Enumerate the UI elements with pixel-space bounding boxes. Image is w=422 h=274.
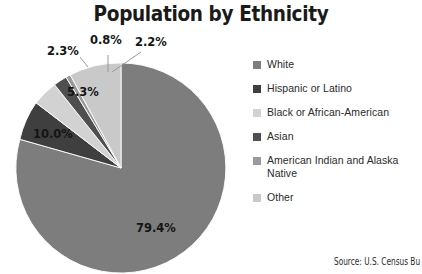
- legend-label-black-or-african-american: Black or African-American: [267, 106, 389, 119]
- legend-label-other: Other: [267, 191, 294, 204]
- legend-item-asian[interactable]: Asian: [253, 130, 422, 143]
- legend-label-asian: Asian: [267, 130, 294, 143]
- legend-item-white[interactable]: White: [253, 58, 422, 71]
- legend-swatch-white: [253, 61, 261, 69]
- source-note: Source: U.S. Census Bu: [334, 256, 420, 267]
- legend-swatch-other: [253, 194, 261, 202]
- leader-line-asian: [80, 57, 88, 67]
- legend-swatch-american-indian-and-alaska-native: [253, 157, 261, 165]
- data-label-hispanic-or-latino: 10.0%: [33, 128, 73, 141]
- legend-item-other[interactable]: Other: [253, 191, 422, 204]
- data-label-white: 79.4%: [136, 222, 176, 235]
- legend-swatch-black-or-african-american: [253, 109, 261, 117]
- legend-label-hispanic-or-latino: Hispanic or Latino: [267, 82, 352, 95]
- data-label-black-or-african-american: 5.3%: [67, 86, 99, 99]
- data-label-asian: 2.3%: [47, 45, 79, 58]
- chart-legend: White Hispanic or Latino Black or Africa…: [253, 58, 422, 215]
- data-label-american-indian-and-alaska-native: 0.8%: [90, 34, 122, 47]
- legend-item-hispanic-or-latino[interactable]: Hispanic or Latino: [253, 82, 422, 95]
- legend-swatch-hispanic-or-latino: [253, 85, 261, 93]
- pie-chart-figure: Population by Ethnicity (function () { v…: [0, 0, 422, 274]
- data-label-other: 2.2%: [135, 36, 167, 49]
- legend-item-american-indian-and-alaska-native[interactable]: American Indian and Alaska Native: [253, 154, 422, 180]
- legend-item-black-or-african-american[interactable]: Black or African-American: [253, 106, 422, 119]
- legend-label-white: White: [267, 58, 294, 71]
- legend-label-american-indian-and-alaska-native: American Indian and Alaska Native: [267, 154, 422, 180]
- legend-swatch-asian: [253, 133, 261, 141]
